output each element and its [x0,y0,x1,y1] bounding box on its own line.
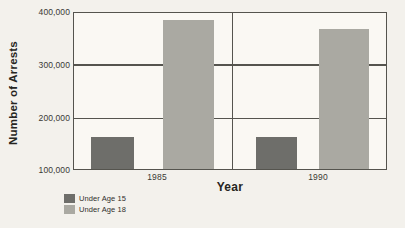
bar-1990-under-age-18 [319,29,369,169]
y-axis-title-container: Number of Arrests [0,0,26,185]
legend-label-under-age-18: Under Age 18 [79,205,126,214]
y-tick-200000: 200,000 [26,113,70,123]
legend: Under Age 15 Under Age 18 [64,193,126,215]
y-tick-400000: 400,000 [26,7,70,17]
group-divider [232,13,233,169]
plot-area [73,12,387,170]
legend-item-under-age-18: Under Age 18 [64,204,126,214]
x-axis-title: Year [73,180,387,194]
legend-label-under-age-15: Under Age 15 [79,194,126,203]
legend-swatch-icon-under-age-18 [64,205,75,214]
bar-chart-figure: Number of Arrests 400,000 300,000 200,00… [0,0,405,228]
bar-1985-under-age-15 [91,137,134,169]
y-tick-100000: 100,000 [26,165,70,175]
y-axis-title: Number of Arrests [7,41,19,145]
y-tick-300000: 300,000 [26,60,70,70]
legend-item-under-age-15: Under Age 15 [64,193,126,203]
bar-1985-under-age-18 [163,20,214,169]
legend-swatch-icon-under-age-15 [64,194,75,203]
bar-1990-under-age-15 [256,137,297,169]
